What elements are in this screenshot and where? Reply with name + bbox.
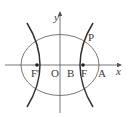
point-p-label: P [88, 32, 94, 43]
y-axis-label: y [54, 12, 59, 23]
right-focus-label: F [81, 68, 87, 79]
origin-label: O [51, 68, 59, 79]
point-a-label: A [98, 68, 106, 79]
conic-diagram: y x P F' O B F A [0, 0, 130, 117]
diagram-canvas [0, 0, 130, 117]
point-b-label: B [67, 68, 74, 79]
x-axis-label: x [116, 66, 121, 77]
left-focus-label: F' [31, 68, 39, 79]
